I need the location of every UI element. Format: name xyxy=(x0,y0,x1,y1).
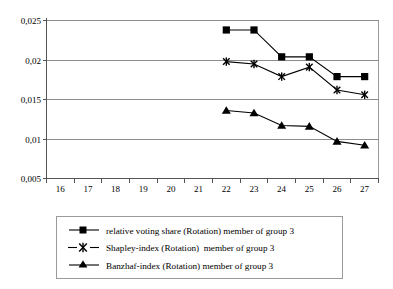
line-chart: 0,025 0,02 0,015 0,01 0,005 xyxy=(0,0,393,289)
triangle-marker xyxy=(222,106,231,114)
y-tick-label: 0,015 xyxy=(21,95,42,105)
triangle-marker xyxy=(333,137,342,145)
square-marker xyxy=(223,26,230,33)
legend-label: Banzhaf-index (Rotation) member of group… xyxy=(106,261,274,271)
square-marker xyxy=(278,53,285,60)
x-axis-tick-labels: 16 17 18 19 20 21 22 23 24 25 26 27 xyxy=(56,184,370,194)
triangle-marker xyxy=(277,121,286,129)
square-marker-icon xyxy=(80,227,87,234)
series-triangle xyxy=(222,106,369,148)
star-marker xyxy=(306,63,313,71)
x-tick-label: 16 xyxy=(56,184,66,194)
y-tick-label: 0,005 xyxy=(21,174,42,184)
series-star xyxy=(223,57,368,99)
x-tick-label: 27 xyxy=(360,184,370,194)
data-series-layer xyxy=(222,26,369,148)
gridlines xyxy=(47,21,379,140)
square-marker xyxy=(306,53,313,60)
x-tick-label: 20 xyxy=(167,184,177,194)
x-tick-label: 25 xyxy=(305,184,315,194)
x-tick-label: 23 xyxy=(250,184,260,194)
y-tick-label: 0,01 xyxy=(25,135,41,145)
square-marker xyxy=(361,73,368,80)
series-line xyxy=(226,30,364,77)
x-tick-label: 22 xyxy=(222,184,231,194)
series-line xyxy=(226,62,364,95)
x-tick-label: 26 xyxy=(333,184,343,194)
square-marker xyxy=(333,73,340,80)
y-axis-tick-labels: 0,025 0,02 0,015 0,01 0,005 xyxy=(21,16,42,184)
star-marker xyxy=(278,72,285,80)
series-line xyxy=(226,111,364,146)
x-tick-label: 18 xyxy=(111,184,121,194)
chart-legend: relative voting share (Rotation) member … xyxy=(57,217,343,279)
y-tick-label: 0,02 xyxy=(25,56,41,66)
x-tick-label: 21 xyxy=(194,184,203,194)
square-marker xyxy=(250,26,257,33)
x-tick-label: 17 xyxy=(84,184,94,194)
x-tick-label: 24 xyxy=(277,184,287,194)
chart-container: 0,025 0,02 0,015 0,01 0,005 xyxy=(0,0,393,289)
legend-label: relative voting share (Rotation) member … xyxy=(106,226,294,236)
legend-label: Shapley-index (Rotation) member of group… xyxy=(106,243,275,253)
x-axis-tick-marks xyxy=(47,179,379,183)
x-tick-label: 19 xyxy=(139,184,149,194)
y-tick-label: 0,025 xyxy=(21,16,42,26)
